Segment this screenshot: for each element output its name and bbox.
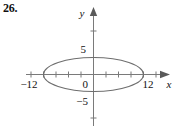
coordinate-plot: y x 5 −5 0 −12 12 — [0, 0, 178, 131]
figure-container: 26. y x 5 −5 0 −12 12 — [0, 0, 178, 131]
y-tick-label-neg5: −5 — [76, 95, 88, 107]
y-axis-arrow-icon — [90, 7, 97, 16]
x-tick-label-neg12: −12 — [20, 78, 37, 90]
x-tick-label-12: 12 — [143, 78, 154, 90]
x-axis-label: x — [166, 78, 172, 90]
y-axis-label: y — [79, 7, 85, 19]
origin-label: 0 — [83, 78, 89, 90]
y-tick-label-5: 5 — [81, 43, 87, 55]
